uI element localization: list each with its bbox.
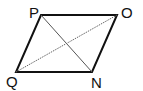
diagonal-qo [16,15,117,72]
vertex-label-p: P [29,4,39,21]
vertex-label-o: O [121,4,133,21]
vertex-label-q: Q [6,73,18,90]
diagram-svg: P O Q N [0,0,143,91]
parallelogram-diagram: P O Q N [0,0,143,91]
vertex-label-n: N [91,74,102,91]
